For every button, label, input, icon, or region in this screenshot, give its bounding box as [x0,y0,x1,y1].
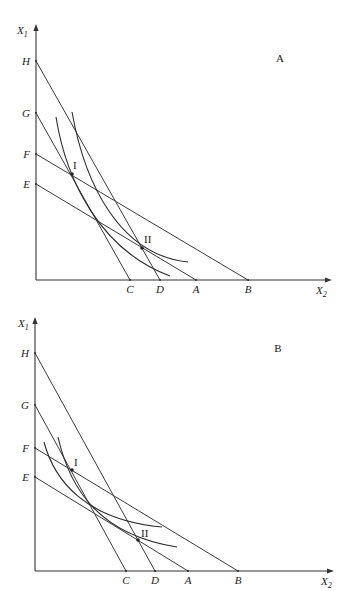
intercept-dot [129,279,131,281]
x-intercept-label-c: C [126,283,134,295]
indifference-curve-1 [58,437,177,547]
point-label-i: I [74,456,78,468]
budget-line-ea [36,184,196,280]
panel-b: X1X2HGFECDABIIIB [17,317,334,590]
intercept-dot [34,476,36,478]
x-intercept-label-d: D [155,283,164,295]
intercept-dot [125,570,127,572]
y-intercept-label-g: G [21,399,29,411]
arrow-up-icon [32,317,37,324]
y-intercept-label-e: E [21,471,29,483]
point-label-ii: II [144,233,152,245]
x-intercept-label-b: B [245,283,252,295]
x-intercept-label-d: D [150,574,159,586]
indifference-curve-diagram: X1X2HGFECDABIIIAX1X2HGFECDABIIIB [0,0,350,591]
x-axis-label: X2 [320,575,332,590]
y-axis-label-subscript: 1 [24,30,28,39]
intercept-dot [34,447,36,449]
panel-a: X1X2HGFECDABIIIA [16,24,332,299]
arrow-right-icon [327,568,334,573]
intercept-dot [154,570,156,572]
y-axis-label-subscript: 1 [25,323,29,332]
intercept-dot [34,404,36,406]
equilibrium-point-ii [140,246,144,250]
x-intercept-label-b: B [235,574,242,586]
x-axis-label-subscript: 2 [328,581,332,590]
panel-title: B [274,342,281,354]
point-label-ii: II [141,527,149,539]
x-intercept-label-a: A [192,283,200,295]
budget-line-fb [35,448,238,571]
y-intercept-label-f: F [21,442,29,454]
y-intercept-label-f: F [22,148,30,160]
x-intercept-label-c: C [122,574,130,586]
panel-title: A [276,52,284,64]
y-intercept-label-h: H [20,347,30,359]
equilibrium-point-i [70,172,74,176]
y-intercept-label-h: H [21,55,31,67]
figure-canvas: X1X2HGFECDABIIIAX1X2HGFECDABIIIB [0,0,350,591]
y-intercept-label-g: G [22,107,30,119]
intercept-dot [35,183,37,185]
budget-line-hd [35,353,155,571]
y-intercept-label-e: E [22,178,30,190]
intercept-dot [159,279,161,281]
x-intercept-label-a: A [184,574,192,586]
intercept-dot [35,112,37,114]
intercept-dot [35,153,37,155]
budget-line-fb [36,154,248,280]
intercept-dot [35,60,37,62]
intercept-dot [195,279,197,281]
intercept-dot [187,570,189,572]
indifference-curve-2 [72,112,188,262]
y-axis-label: X1 [16,24,28,39]
arrow-up-icon [33,24,38,31]
x-axis-label-subscript: 2 [323,290,327,299]
point-label-i: I [73,159,77,171]
y-axis-label: X1 [17,317,29,332]
budget-line-gc [36,113,130,280]
intercept-dot [247,279,249,281]
intercept-dot [237,570,239,572]
equilibrium-point-i [70,468,74,472]
intercept-dot [34,352,36,354]
arrow-right-icon [325,277,332,282]
budget-line-gc [35,405,126,571]
x-axis-label: X2 [315,284,327,299]
equilibrium-point-ii [136,538,140,542]
